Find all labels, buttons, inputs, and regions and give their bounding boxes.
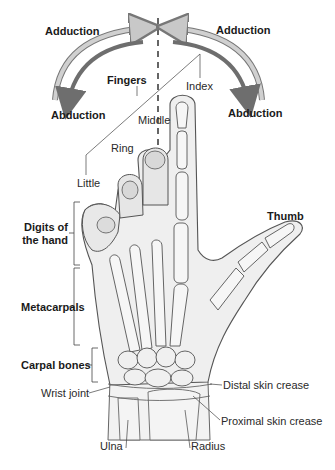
label-radius: Radius	[191, 440, 225, 453]
label-proximal-skin-crease: Proximal skin crease	[221, 415, 322, 428]
hand-anatomy-diagram: Adduction Adduction Abduction Abduction …	[0, 0, 335, 470]
label-ulna: Ulna	[100, 440, 123, 453]
label-middle-finger: Middle	[138, 114, 170, 127]
radius-bone	[148, 389, 200, 440]
label-adduction-right: Adduction	[216, 24, 270, 37]
label-adduction-left: Adduction	[45, 25, 99, 38]
label-carpal-bones: Carpal bones	[21, 359, 91, 372]
label-fingers: Fingers	[107, 74, 147, 87]
label-index-finger: Index	[186, 80, 213, 93]
label-distal-skin-crease: Distal skin crease	[223, 379, 309, 392]
label-thumb: Thumb	[267, 210, 304, 223]
label-digits-of-the-hand: Digits of the hand	[18, 221, 68, 247]
label-wrist-joint: Wrist joint	[41, 387, 89, 400]
label-ring-finger: Ring	[111, 142, 134, 155]
label-abduction-right: Abduction	[228, 107, 282, 120]
adduction-arrow-left	[55, 28, 145, 100]
label-little-finger: Little	[77, 177, 100, 190]
label-abduction-left: Abduction	[51, 109, 105, 122]
ulna-bone	[118, 398, 140, 440]
label-metacarpals: Metacarpals	[21, 301, 85, 314]
